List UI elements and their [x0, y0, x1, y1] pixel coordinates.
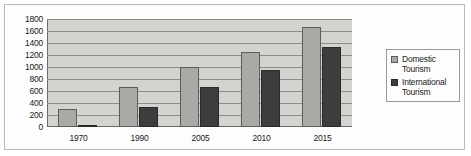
y-axis: 020040060080010001200140016001800: [5, 19, 43, 127]
bar-group: [291, 19, 352, 127]
legend-label-international: InternationalTourism: [402, 77, 446, 97]
y-axis-tick-label: 1400: [5, 39, 43, 47]
bar-domestic-1970[interactable]: [58, 109, 77, 127]
y-axis-tick-label: 600: [5, 87, 43, 95]
legend-item-domestic[interactable]: DomesticTourism: [391, 54, 456, 74]
legend-label-domestic: DomesticTourism: [402, 54, 436, 74]
bar-group: [230, 19, 291, 127]
y-axis-tick-label: 1600: [5, 27, 43, 35]
x-axis-tick-label: 2015: [292, 133, 353, 143]
chart-legend: DomesticTourism InternationalTourism: [386, 49, 460, 102]
bar-international-2005[interactable]: [200, 87, 219, 127]
plot-region: [47, 19, 352, 127]
y-axis-tick-label: 800: [5, 75, 43, 83]
bar-group: [47, 19, 108, 127]
y-axis-tick-label: 1000: [5, 63, 43, 71]
y-axis-tick-label: 1200: [5, 51, 43, 59]
legend-swatch-international-icon: [391, 79, 398, 86]
bar-group: [108, 19, 169, 127]
bar-domestic-2005[interactable]: [180, 67, 199, 127]
x-axis-tick-label: 2005: [170, 133, 231, 143]
bar-group: [169, 19, 230, 127]
bar-international-1970[interactable]: [78, 125, 97, 127]
y-axis-tick-label: 400: [5, 99, 43, 107]
bar-domestic-2015[interactable]: [302, 27, 321, 127]
bar-international-1990[interactable]: [139, 107, 158, 127]
y-axis-tick-label: 0: [5, 123, 43, 131]
y-axis-tick-label: 200: [5, 111, 43, 119]
chart-card: 020040060080010001200140016001800 197019…: [4, 4, 465, 150]
x-axis: 19701990200520102015: [48, 131, 352, 147]
bar-domestic-1990[interactable]: [119, 87, 138, 127]
legend-swatch-domestic-icon: [391, 56, 398, 63]
bar-domestic-2010[interactable]: [241, 52, 260, 127]
x-axis-tick-label: 1990: [109, 133, 170, 143]
y-axis-tick-label: 1800: [5, 15, 43, 23]
bar-international-2015[interactable]: [322, 47, 341, 127]
x-axis-tick-label: 2010: [231, 133, 292, 143]
x-axis-tick-label: 1970: [48, 133, 109, 143]
legend-item-international[interactable]: InternationalTourism: [391, 77, 456, 97]
bar-international-2010[interactable]: [261, 70, 280, 127]
